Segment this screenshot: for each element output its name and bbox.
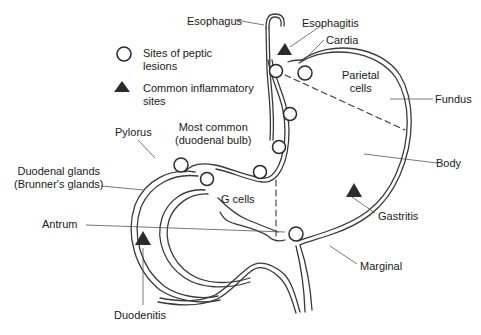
leader-cardia	[304, 40, 324, 60]
label-cardia: Cardia	[326, 34, 358, 47]
legend-lesion-icon	[117, 47, 131, 61]
lesion-marker	[174, 158, 188, 172]
label-marginal: Marginal	[360, 260, 402, 273]
leader-antrum	[86, 225, 285, 232]
leader-duodenal-glands	[101, 186, 144, 190]
label-duodenal-glands-line1: Duodenal glands	[14, 165, 104, 178]
esophagitis-marker	[277, 43, 292, 55]
label-g-cells: G cells	[221, 193, 255, 206]
leader-marginal	[330, 246, 357, 264]
label-gastritis: Gastritis	[378, 210, 418, 223]
label-duodenal-glands: Duodenal glands (Brunner's glands)	[14, 165, 104, 191]
lesion-marker	[298, 66, 312, 80]
legend-lesion-line1: Sites of peptic	[143, 47, 212, 60]
lesion-marker	[201, 173, 214, 186]
label-antrum: Antrum	[42, 218, 77, 231]
lesion-marker	[254, 166, 267, 179]
label-most-common-line2: (duodenal bulb)	[175, 134, 251, 147]
legend-inflam-line1: Common inflammatory	[143, 82, 254, 95]
leader-gastritis	[352, 197, 375, 213]
label-esophagus: Esophagus	[187, 15, 242, 28]
lesion-marker	[284, 108, 297, 121]
label-parietal-line2: cells	[342, 82, 379, 95]
leader-pylorus	[138, 140, 155, 158]
lesion-marker	[289, 227, 303, 241]
label-duodenitis: Duodenitis	[114, 309, 166, 322]
antrum-outline	[158, 212, 312, 313]
legend-inflammation-icon	[114, 81, 130, 92]
legend-inflammation-label: Common inflammatory sites	[143, 82, 254, 108]
duodenum-outline	[131, 171, 278, 302]
label-body: Body	[436, 157, 461, 170]
lesion-marker	[270, 65, 283, 78]
label-esophagitis: Esophagitis	[302, 17, 359, 30]
legend-lesion-line2: lesions	[143, 60, 212, 73]
label-duodenal-glands-line2: (Brunner's glands)	[14, 178, 104, 191]
label-most-common: Most common (duodenal bulb)	[175, 121, 251, 147]
label-pylorus: Pylorus	[115, 126, 152, 139]
lesion-marker	[273, 141, 286, 154]
label-most-common-line1: Most common	[175, 121, 251, 134]
gastritis-marker	[346, 183, 362, 197]
legend-lesion-label: Sites of peptic lesions	[143, 47, 212, 73]
label-parietal-line1: Parietal	[342, 69, 379, 82]
label-fundus: Fundus	[435, 93, 472, 106]
label-parietal-cells: Parietal cells	[342, 69, 379, 95]
legend-inflam-line2: sites	[143, 95, 254, 108]
